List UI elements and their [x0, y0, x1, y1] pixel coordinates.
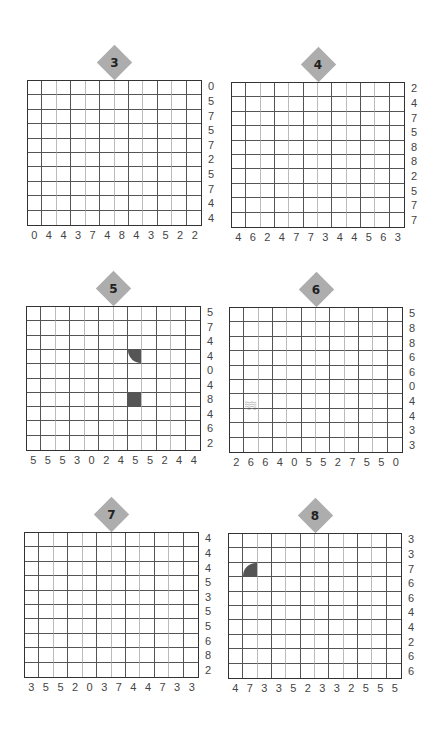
grid-cell[interactable] [129, 95, 143, 109]
grid-cell[interactable] [232, 169, 246, 183]
grid-cell[interactable] [243, 534, 257, 548]
grid-cell[interactable] [229, 606, 243, 620]
grid-cell[interactable] [142, 436, 156, 450]
grid-cell[interactable] [100, 196, 114, 210]
grid-cell[interactable] [330, 366, 344, 380]
grid-cell[interactable] [345, 438, 359, 452]
grid-cell[interactable] [128, 307, 142, 321]
grid-cell[interactable] [229, 649, 243, 663]
grid-cell[interactable] [169, 605, 183, 619]
grid-cell[interactable] [330, 351, 344, 365]
grid-cell[interactable] [259, 366, 273, 380]
grid-cell[interactable] [85, 336, 99, 350]
grid-cell[interactable] [344, 635, 358, 649]
grid-cell[interactable] [57, 153, 71, 167]
grid-cell[interactable] [273, 308, 287, 322]
grid-cell[interactable] [261, 213, 275, 227]
grid-cell[interactable] [315, 577, 329, 591]
grid-cell[interactable] [71, 153, 85, 167]
grid-cell[interactable] [315, 563, 329, 577]
grid-cell[interactable] [25, 576, 39, 590]
grid-cell[interactable] [361, 169, 375, 183]
grid-cell[interactable] [143, 182, 157, 196]
grid-cell[interactable] [230, 322, 244, 336]
grid-cell[interactable] [230, 423, 244, 437]
grid-cell[interactable] [258, 577, 272, 591]
grid-cell[interactable] [140, 634, 154, 648]
grid-cell[interactable] [272, 649, 286, 663]
grid-cell[interactable] [232, 155, 246, 169]
grid-cell[interactable] [56, 379, 70, 393]
grid-cell[interactable] [115, 182, 129, 196]
grid-cell[interactable] [128, 336, 142, 350]
grid-cell[interactable] [387, 592, 401, 606]
grid-cell[interactable] [388, 394, 402, 408]
grid-cell[interactable] [86, 153, 100, 167]
grid-cell[interactable] [301, 548, 315, 562]
grid-cell[interactable] [372, 606, 386, 620]
grid-cell[interactable] [258, 620, 272, 634]
grid-cell[interactable] [286, 635, 300, 649]
grid-cell[interactable] [258, 635, 272, 649]
grid-cell[interactable] [261, 112, 275, 126]
grid-cell[interactable] [158, 211, 172, 225]
grid-cell[interactable] [243, 548, 257, 562]
grid-cell[interactable] [42, 153, 56, 167]
grid-cell[interactable] [387, 534, 401, 548]
grid-cell[interactable] [246, 184, 260, 198]
grid-cell[interactable] [56, 393, 70, 407]
grid-cell[interactable] [57, 167, 71, 181]
grid-cell[interactable] [28, 153, 42, 167]
grid-cell[interactable] [275, 126, 289, 140]
grid-cell[interactable] [184, 562, 198, 576]
grid-cell[interactable] [129, 139, 143, 153]
grid-cell[interactable] [100, 167, 114, 181]
grid-cell[interactable] [114, 393, 128, 407]
grid-cell[interactable] [375, 169, 389, 183]
grid-cell[interactable] [126, 605, 140, 619]
grid-cell[interactable] [301, 577, 315, 591]
grid-cell[interactable] [272, 620, 286, 634]
grid-cell[interactable] [172, 196, 186, 210]
grid-cell[interactable] [158, 81, 172, 95]
grid-cell[interactable] [390, 155, 404, 169]
grid-cell[interactable] [126, 648, 140, 662]
grid-cell[interactable] [329, 635, 343, 649]
grid-cell[interactable] [261, 97, 275, 111]
grid-cell[interactable] [157, 379, 171, 393]
grid-cell[interactable] [68, 547, 82, 561]
grid-cell[interactable] [41, 421, 55, 435]
grid-cell[interactable] [387, 577, 401, 591]
grid-cell[interactable] [114, 350, 128, 364]
grid-cell[interactable] [157, 393, 171, 407]
grid-cell[interactable] [373, 394, 387, 408]
grid-cell[interactable] [140, 533, 154, 547]
grid-cell[interactable] [230, 438, 244, 452]
grid-cell[interactable] [246, 83, 260, 97]
grid-cell[interactable] [187, 124, 201, 138]
grid-cell[interactable] [302, 366, 316, 380]
grid-cell[interactable] [273, 380, 287, 394]
grid-cell[interactable] [27, 336, 41, 350]
grid-cell[interactable] [244, 308, 258, 322]
grid-cell[interactable] [41, 407, 55, 421]
grid-cell[interactable] [375, 213, 389, 227]
grid-cell[interactable] [301, 664, 315, 678]
grid-cell[interactable] [246, 213, 260, 227]
grid-cell[interactable] [158, 167, 172, 181]
grid-cell[interactable] [347, 198, 361, 212]
grid-cell[interactable] [304, 112, 318, 126]
grid-cell[interactable] [286, 577, 300, 591]
grid-cell[interactable] [259, 380, 273, 394]
grid-cell[interactable] [272, 563, 286, 577]
grid-cell[interactable] [361, 141, 375, 155]
grid-cell[interactable] [56, 321, 70, 335]
grid-cell[interactable] [259, 394, 273, 408]
grid-cell[interactable] [186, 421, 200, 435]
grid-cell[interactable] [143, 196, 157, 210]
grid-cell[interactable] [99, 364, 113, 378]
grid-cell[interactable] [230, 337, 244, 351]
grid-cell[interactable] [27, 321, 41, 335]
grid-cell[interactable] [347, 83, 361, 97]
grid-cell[interactable] [289, 155, 303, 169]
